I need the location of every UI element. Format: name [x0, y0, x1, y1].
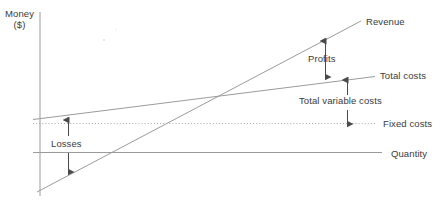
y-axis-title: Money ($) [5, 8, 34, 30]
quantity-label: Quantity [391, 148, 427, 159]
scan-artifact-dot [103, 39, 105, 41]
scan-artifact-dot [115, 29, 116, 30]
losses-label: Losses [51, 138, 82, 149]
y-axis-title-line1: Money [5, 8, 34, 19]
break-even-chart: Money ($) Revenue Total costs Total vari… [0, 0, 441, 206]
profits-label: Profits [308, 53, 336, 64]
y-axis-title-line2: ($) [5, 19, 34, 30]
revenue-label: Revenue [366, 16, 405, 27]
revenue-line [37, 21, 361, 192]
total-costs-label: Total costs [380, 70, 426, 81]
fixed-costs-label: Fixed costs [383, 118, 432, 129]
total-variable-costs-label: Total variable costs [299, 95, 382, 106]
